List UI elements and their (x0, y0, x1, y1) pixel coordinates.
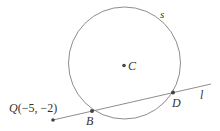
label-q-coords: (−5, −2) (18, 101, 58, 115)
geometry-diagram: s C B D l Q(−5, −2) (0, 0, 220, 131)
label-s: s (160, 8, 164, 20)
point-b (90, 109, 94, 113)
point-d (171, 91, 175, 95)
label-d: D (171, 96, 181, 110)
label-q-name: Q (9, 101, 18, 115)
label-l: l (200, 88, 204, 102)
line-l (53, 84, 211, 120)
label-b: B (86, 114, 94, 128)
point-c (122, 64, 126, 68)
point-q (51, 118, 55, 122)
label-c: C (128, 59, 137, 73)
label-q: Q(−5, −2) (9, 101, 57, 115)
circle-s (69, 7, 181, 119)
